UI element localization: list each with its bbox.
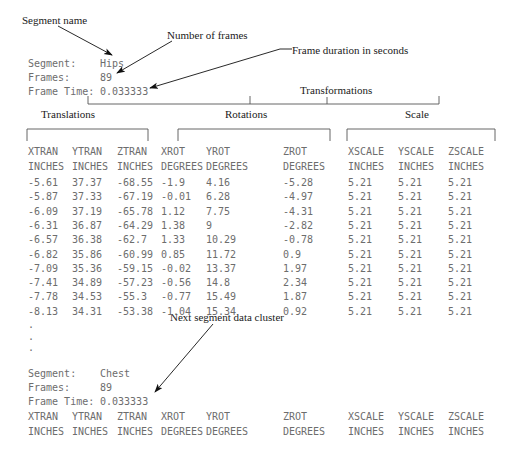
table-cell: DEGREES <box>161 426 203 437</box>
table-cell: INCHES <box>348 426 384 437</box>
table-cell: XROT <box>161 411 185 422</box>
figure-canvas: Segment name Number of frames Frame dura… <box>0 0 514 462</box>
table-cell: ZSCALE <box>448 411 484 422</box>
table-cell: INCHES <box>117 426 153 437</box>
table-cell: ZROT <box>283 411 307 422</box>
table-cell: INCHES <box>72 426 108 437</box>
table-cell: INCHES <box>398 426 434 437</box>
table-cell: INCHES <box>448 426 484 437</box>
table-cell: ZTRAN <box>117 411 147 422</box>
table-cell: INCHES <box>28 426 64 437</box>
data-table-secondary: XTRANYTRANZTRANXROTYROTZROTXSCALEYSCALEZ… <box>0 0 514 462</box>
table-cell: DEGREES <box>206 426 248 437</box>
table-cell: DEGREES <box>283 426 325 437</box>
table-cell: XTRAN <box>28 411 58 422</box>
table-cell: YROT <box>206 411 230 422</box>
table-cell: YTRAN <box>72 411 102 422</box>
table-cell: XSCALE <box>348 411 384 422</box>
table-cell: YSCALE <box>398 411 434 422</box>
